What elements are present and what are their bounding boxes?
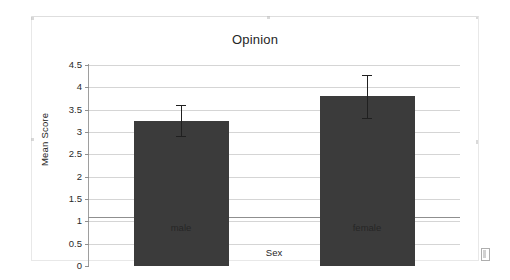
bar <box>320 96 415 266</box>
y-axis-tick-label: 1.5 <box>69 194 82 204</box>
y-axis-tick <box>85 199 89 200</box>
scanned-page: Opinion 00.511.522.533.544.5 Mean Score … <box>0 0 510 280</box>
y-axis-tick <box>85 110 89 111</box>
error-bar <box>367 75 368 118</box>
error-bar <box>181 105 182 136</box>
y-axis-tick-label: 0 <box>77 261 82 271</box>
y-axis-tick-label: 4.5 <box>69 60 82 70</box>
y-axis-tick <box>85 154 89 155</box>
y-axis-tick <box>85 87 89 88</box>
y-axis-tick <box>85 132 89 133</box>
y-axis-tick-label: 2.5 <box>69 150 82 160</box>
gridline <box>88 87 460 88</box>
chart-title: Opinion <box>31 32 479 47</box>
y-axis-tick <box>85 244 89 245</box>
y-axis-tick-label: 1 <box>77 217 82 227</box>
y-axis-tick-label: 4 <box>77 83 82 93</box>
gridline <box>88 65 460 66</box>
y-axis-tick <box>85 221 89 222</box>
error-bar-cap-lower <box>176 136 186 137</box>
scan-artifact-bottom-right <box>481 248 490 261</box>
y-axis-tick <box>85 65 89 66</box>
x-axis-title: Sex <box>88 247 460 258</box>
plot-area: 00.511.522.533.544.5 <box>88 65 460 267</box>
x-axis-tick-label: male <box>141 222 221 233</box>
bar-chart: Opinion 00.511.522.533.544.5 Mean Score … <box>31 16 479 261</box>
bar <box>134 121 229 266</box>
y-axis-tick <box>85 177 89 178</box>
error-bar-cap-upper <box>176 105 186 106</box>
error-bar-cap-upper <box>362 75 372 76</box>
gridline <box>88 266 460 267</box>
y-axis-tick-label: 0.5 <box>69 239 82 249</box>
y-axis-title: Mean Score <box>39 113 50 166</box>
y-axis-tick-label: 3 <box>77 127 82 137</box>
y-axis-tick <box>85 266 89 267</box>
x-axis-tick-label: female <box>327 222 407 233</box>
y-axis-tick-label: 3.5 <box>69 105 82 115</box>
y-axis-tick-label: 2 <box>77 172 82 182</box>
error-bar-cap-lower <box>362 118 372 119</box>
